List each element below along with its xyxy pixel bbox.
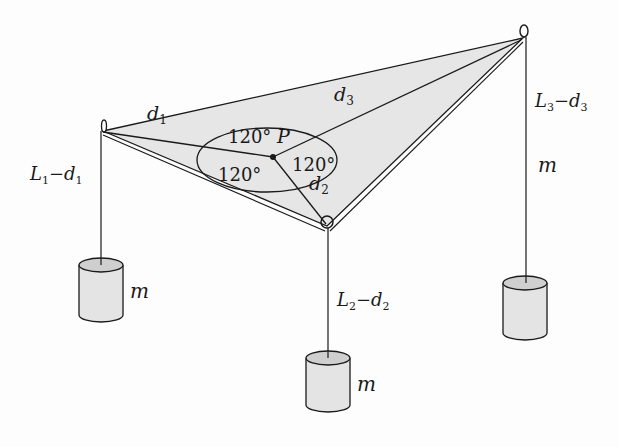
label-L3-d3: L3−d3 [534, 90, 588, 114]
label-L2-d2: L2−d2 [336, 289, 390, 313]
varignon-diagram: d1 d3 d2 120° P 120° 120° L1−d1 L3−d3 L2… [0, 0, 619, 447]
label-mass-2: m [357, 372, 376, 396]
label-mass-1: m [130, 279, 149, 303]
triangular-table [103, 38, 523, 226]
label-point-p: P [276, 125, 291, 147]
label-L1-d1: L1−d1 [29, 163, 83, 187]
label-d1: d1 [147, 102, 167, 127]
angle-label-top: 120° [228, 126, 271, 147]
mass-2-icon [306, 351, 350, 412]
point-p-dot [270, 154, 276, 160]
angle-label-left: 120° [218, 164, 261, 185]
angle-label-right: 120° [292, 154, 335, 175]
pulley-1-icon [102, 120, 107, 132]
label-mass-3: m [538, 153, 557, 177]
pulley-3-icon [520, 25, 528, 37]
mass-3-icon [503, 276, 547, 340]
mass-1-icon [79, 258, 123, 322]
